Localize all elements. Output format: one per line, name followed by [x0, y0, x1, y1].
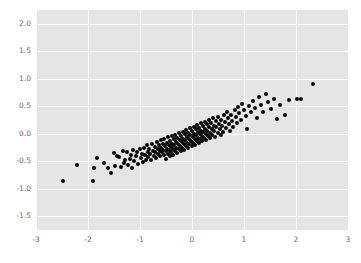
- gridline-vertical: [36, 10, 37, 230]
- x-tick-label: -2: [84, 236, 91, 244]
- scatter-point: [92, 166, 96, 170]
- scatter-point: [251, 99, 255, 103]
- gridline-horizontal: [36, 189, 348, 190]
- scatter-point: [237, 111, 241, 115]
- scatter-point: [75, 163, 79, 167]
- scatter-point: [230, 119, 234, 123]
- gridline-vertical: [140, 10, 141, 230]
- x-tick-label: -1: [136, 236, 143, 244]
- scatter-plot-figure: -3-2-10123 2.01.51.00.50.0-0.5-1.0-1.5: [0, 0, 361, 263]
- scatter-point: [253, 106, 257, 110]
- scatter-point: [311, 82, 315, 86]
- y-tick-label: -0.5: [16, 157, 31, 165]
- scatter-point: [213, 135, 217, 139]
- gridline-vertical: [192, 10, 193, 230]
- x-tick-label: 2: [294, 236, 299, 244]
- scatter-point: [221, 130, 225, 134]
- scatter-point: [228, 129, 232, 133]
- y-tick-label: 2.0: [19, 20, 31, 28]
- scatter-point: [95, 156, 99, 160]
- scatter-point: [229, 113, 233, 117]
- gridline-horizontal: [36, 51, 348, 52]
- y-tick-label: 0.5: [19, 102, 31, 110]
- scatter-point: [128, 157, 132, 161]
- scatter-point: [138, 147, 142, 151]
- scatter-point: [139, 156, 143, 160]
- scatter-point: [261, 110, 265, 114]
- scatter-point: [239, 118, 243, 122]
- scatter-point: [283, 113, 287, 117]
- scatter-point: [119, 165, 123, 169]
- scatter-point: [113, 164, 117, 168]
- scatter-point: [247, 104, 251, 108]
- scatter-point: [106, 166, 110, 170]
- y-tick-label: 0.0: [19, 130, 31, 138]
- scatter-point: [299, 97, 303, 101]
- plot-area: [36, 10, 348, 230]
- scatter-point: [234, 115, 238, 119]
- scatter-point: [244, 114, 248, 118]
- scatter-point: [255, 116, 259, 120]
- scatter-point: [249, 110, 253, 114]
- scatter-point: [245, 127, 249, 131]
- gridline-vertical: [296, 10, 297, 230]
- gridline-vertical: [244, 10, 245, 230]
- scatter-point: [134, 154, 138, 158]
- scatter-point: [242, 108, 246, 112]
- gridline-vertical: [88, 10, 89, 230]
- scatter-point: [102, 161, 106, 165]
- y-tick-label: 1.0: [19, 75, 31, 83]
- scatter-point: [129, 153, 133, 157]
- scatter-point: [269, 107, 273, 111]
- gridline-horizontal: [36, 24, 348, 25]
- scatter-point: [117, 155, 121, 159]
- scatter-point: [257, 95, 261, 99]
- x-tick-label: 3: [346, 236, 351, 244]
- scatter-point: [91, 179, 95, 183]
- x-tick-label: -3: [32, 236, 39, 244]
- scatter-point: [236, 105, 240, 109]
- scatter-point: [264, 92, 268, 96]
- y-tick-label: -1.5: [16, 212, 31, 220]
- scatter-point: [235, 121, 239, 125]
- scatter-point: [130, 166, 134, 170]
- scatter-point: [224, 126, 228, 130]
- y-tick-label: 1.5: [19, 47, 31, 55]
- scatter-point: [109, 171, 113, 175]
- scatter-point: [275, 117, 279, 121]
- scatter-point: [266, 100, 270, 104]
- scatter-point: [61, 179, 65, 183]
- gridline-horizontal: [36, 106, 348, 107]
- gridline-horizontal: [36, 216, 348, 217]
- gridline-horizontal: [36, 79, 348, 80]
- scatter-point: [272, 97, 276, 101]
- gridline-horizontal: [36, 161, 348, 162]
- scatter-point: [231, 125, 235, 129]
- scatter-point: [240, 102, 244, 106]
- y-tick-label: -1.0: [16, 185, 31, 193]
- x-tick-label: 1: [242, 236, 247, 244]
- x-tick-label: 0: [190, 236, 195, 244]
- scatter-point: [287, 98, 291, 102]
